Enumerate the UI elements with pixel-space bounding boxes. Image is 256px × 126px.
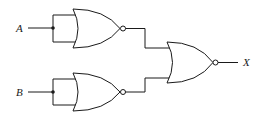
nor-gate-body — [73, 73, 120, 111]
inverter-bubble — [121, 90, 126, 95]
wire-a-top — [53, 15, 77, 28]
wire-b-bottom — [53, 92, 77, 105]
nor-gate-1 — [73, 9, 126, 48]
input-label-b: B — [16, 86, 23, 98]
inverter-bubble — [121, 26, 126, 31]
input-label-a: A — [15, 22, 23, 34]
nor-gate-3 — [167, 42, 218, 83]
nor-gate-body — [73, 9, 120, 48]
logic-circuit-diagram: A B X — [0, 0, 256, 126]
nor-gate-2 — [73, 73, 126, 111]
nor-gate-body — [167, 42, 213, 83]
inverter-bubble — [213, 60, 218, 65]
wire-a-bottom — [53, 28, 77, 42]
wire-gate1-to-gate3 — [126, 29, 173, 49]
output-label-x: X — [242, 56, 251, 68]
wire-b-top — [53, 79, 77, 92]
wire-gate2-to-gate3 — [126, 78, 173, 92]
